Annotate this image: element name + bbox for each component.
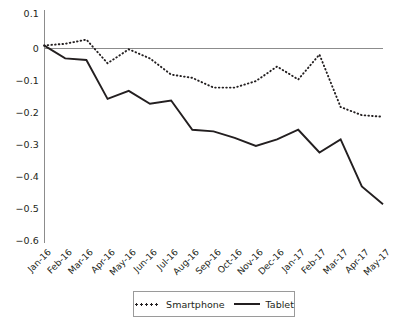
legend-item-smartphone: Smartphone [134, 299, 224, 310]
solid-line-swatch-icon [234, 303, 260, 305]
legend-label: Smartphone [166, 299, 224, 310]
series-line-tablet [44, 45, 383, 204]
x-axis-tick-labels: Jan-16Feb-16Mar-16Apr-16May-16Jun-16Jul-… [0, 243, 403, 298]
series-line-smartphone [44, 40, 383, 117]
legend-item-tablet: Tablet [234, 299, 294, 310]
chart-legend: Smartphone Tablet [133, 291, 295, 317]
dotted-line-swatch-icon [134, 303, 160, 306]
legend-label: Tablet [266, 299, 294, 310]
line-chart: 0.1 0 −0.1 −0.2 −0.3 −0.4 −0.5 −0.6 Jan-… [0, 0, 403, 325]
